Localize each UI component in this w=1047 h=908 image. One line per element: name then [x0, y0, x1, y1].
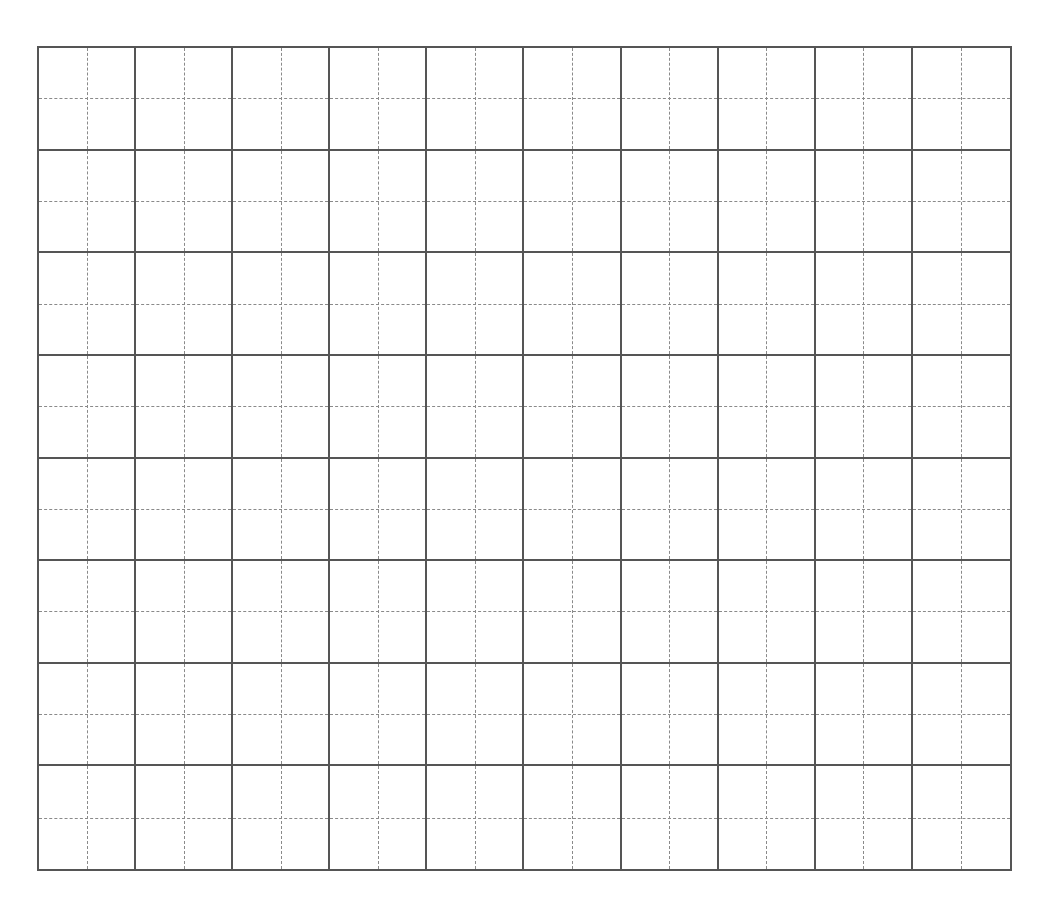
- grid-cell: [816, 356, 913, 459]
- grid-cell: [622, 664, 719, 767]
- grid-cell: [427, 664, 524, 767]
- horizontal-guide-line: [622, 714, 717, 715]
- horizontal-guide-line: [622, 611, 717, 612]
- grid-cell: [622, 459, 719, 562]
- grid-cell: [913, 766, 1010, 869]
- grid-cell: [524, 561, 621, 664]
- horizontal-guide-line: [524, 509, 619, 510]
- grid-cell: [622, 253, 719, 356]
- grid-cell: [427, 48, 524, 151]
- grid-cell: [136, 253, 233, 356]
- horizontal-guide-line: [233, 818, 328, 819]
- horizontal-guide-line: [913, 98, 1010, 99]
- grid-cell: [233, 356, 330, 459]
- horizontal-guide-line: [816, 714, 911, 715]
- grid-cell: [913, 253, 1010, 356]
- horizontal-guide-line: [524, 98, 619, 99]
- horizontal-guide-line: [233, 611, 328, 612]
- horizontal-guide-line: [913, 406, 1010, 407]
- horizontal-guide-line: [913, 201, 1010, 202]
- horizontal-guide-line: [913, 714, 1010, 715]
- horizontal-guide-line: [39, 714, 134, 715]
- grid-cell: [719, 253, 816, 356]
- grid-cell: [233, 459, 330, 562]
- grid-cell: [233, 766, 330, 869]
- horizontal-guide-line: [233, 509, 328, 510]
- horizontal-guide-line: [816, 98, 911, 99]
- horizontal-guide-line: [427, 611, 522, 612]
- horizontal-guide-line: [39, 201, 134, 202]
- grid-cell: [524, 459, 621, 562]
- grid-cell: [816, 561, 913, 664]
- horizontal-guide-line: [816, 818, 911, 819]
- horizontal-guide-line: [39, 509, 134, 510]
- grid-cell: [719, 151, 816, 254]
- grid-cell: [913, 356, 1010, 459]
- horizontal-guide-line: [524, 818, 619, 819]
- horizontal-guide-line: [719, 406, 814, 407]
- horizontal-guide-line: [233, 98, 328, 99]
- horizontal-guide-line: [330, 714, 425, 715]
- grid-cell: [913, 151, 1010, 254]
- horizontal-guide-line: [427, 201, 522, 202]
- grid-cell: [233, 561, 330, 664]
- grid-cell: [136, 151, 233, 254]
- grid-cell: [719, 48, 816, 151]
- grid-cell: [622, 561, 719, 664]
- grid-cell: [816, 253, 913, 356]
- grid-cell: [719, 561, 816, 664]
- horizontal-guide-line: [136, 509, 231, 510]
- horizontal-guide-line: [622, 818, 717, 819]
- horizontal-guide-line: [136, 611, 231, 612]
- grid-cell: [330, 48, 427, 151]
- horizontal-guide-line: [816, 611, 911, 612]
- grid-cell: [524, 48, 621, 151]
- grid-cell: [39, 664, 136, 767]
- grid-cell: [816, 766, 913, 869]
- grid-cell: [39, 561, 136, 664]
- grid-cell: [233, 151, 330, 254]
- grid-cell: [524, 766, 621, 869]
- horizontal-guide-line: [524, 406, 619, 407]
- grid-cell: [330, 664, 427, 767]
- horizontal-guide-line: [427, 509, 522, 510]
- grid-cell: [719, 664, 816, 767]
- horizontal-guide-line: [719, 509, 814, 510]
- grid-cell: [719, 459, 816, 562]
- grid-cell: [524, 151, 621, 254]
- horizontal-guide-line: [816, 304, 911, 305]
- horizontal-guide-line: [719, 201, 814, 202]
- grid-cell: [39, 356, 136, 459]
- horizontal-guide-line: [427, 406, 522, 407]
- horizontal-guide-line: [913, 611, 1010, 612]
- grid-cell: [816, 664, 913, 767]
- horizontal-guide-line: [816, 406, 911, 407]
- grid-cell: [330, 151, 427, 254]
- grid-cell: [816, 151, 913, 254]
- grid-cell: [39, 459, 136, 562]
- grid-cell: [136, 561, 233, 664]
- horizontal-guide-line: [719, 98, 814, 99]
- grid-cell: [524, 356, 621, 459]
- grid-cell: [719, 766, 816, 869]
- horizontal-guide-line: [719, 611, 814, 612]
- horizontal-guide-line: [233, 406, 328, 407]
- grid-cell: [524, 664, 621, 767]
- horizontal-guide-line: [233, 304, 328, 305]
- horizontal-guide-line: [136, 98, 231, 99]
- grid-cell: [136, 48, 233, 151]
- horizontal-guide-line: [622, 98, 717, 99]
- horizontal-guide-line: [524, 611, 619, 612]
- grid-cell: [136, 766, 233, 869]
- horizontal-guide-line: [330, 509, 425, 510]
- grid-cell: [39, 48, 136, 151]
- horizontal-guide-line: [427, 818, 522, 819]
- grid-cell: [427, 151, 524, 254]
- grid-cell: [39, 151, 136, 254]
- horizontal-guide-line: [816, 509, 911, 510]
- horizontal-guide-line: [427, 714, 522, 715]
- grid-cell: [330, 253, 427, 356]
- horizontal-guide-line: [622, 406, 717, 407]
- horizontal-guide-line: [233, 201, 328, 202]
- grid-cell: [136, 356, 233, 459]
